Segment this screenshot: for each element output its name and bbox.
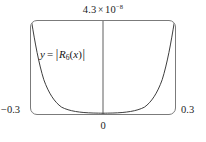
y-max-mantissa: 4.3 [83, 4, 97, 15]
plot-canvas [31, 21, 175, 114]
remainder-symbol: R [59, 48, 66, 60]
multiplication-sign: × [96, 5, 105, 15]
x-min-label: −0.3 [1, 104, 20, 115]
y-max-base: 10 [105, 4, 116, 15]
plot-screen [30, 20, 176, 115]
y-max-exponent: −8 [116, 3, 123, 10]
equals-sign: = [45, 48, 55, 60]
remainder-order: 6 [66, 53, 70, 62]
taylor-remainder-figure: 4.3×10−8 y=|R6(x)| −0.3 0.3 0 [0, 0, 206, 142]
origin-label: 0 [0, 120, 206, 131]
equation-annotation: y=|R6(x)| [40, 47, 86, 62]
abs-bar-close: | [82, 47, 86, 61]
y-max-label: 4.3×10−8 [0, 4, 206, 15]
x-max-label: 0.3 [181, 104, 194, 115]
